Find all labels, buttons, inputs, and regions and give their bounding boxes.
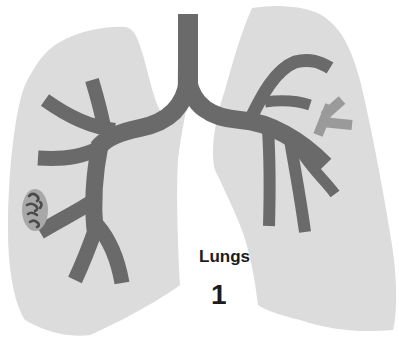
caption-title: Lungs <box>199 247 259 267</box>
caption-number: 1 <box>211 281 241 309</box>
branch-l-lower-a <box>268 130 270 226</box>
lungs-illustration <box>0 0 399 346</box>
lesion <box>22 189 48 231</box>
branch-l-upper-mid <box>265 101 310 105</box>
branch-r-lower-trunk <box>94 145 100 230</box>
